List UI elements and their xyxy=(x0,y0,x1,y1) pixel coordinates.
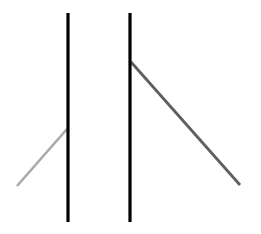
diagram-canvas xyxy=(0,0,261,234)
